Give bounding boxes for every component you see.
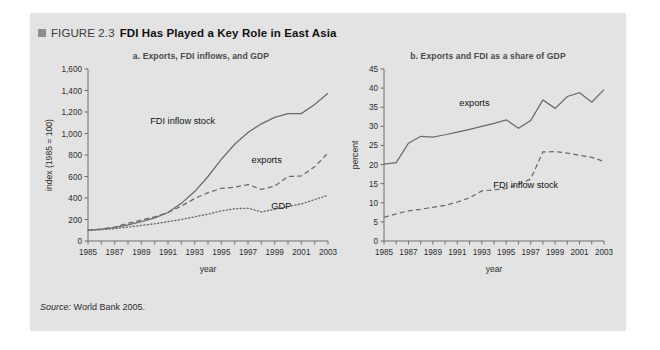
x-tick-label: 1993 xyxy=(186,248,205,257)
y-tick-label: 1,400 xyxy=(62,87,83,96)
y-tick-label: 400 xyxy=(68,194,82,203)
x-tick-label: 2003 xyxy=(595,248,614,257)
x-tick-label: 1989 xyxy=(132,248,151,257)
series-label: FDI inflow stock xyxy=(150,116,215,126)
x-tick-label: 1991 xyxy=(159,248,178,257)
figure-panel: FIGURE 2.3 FDI Has Played a Key Role in … xyxy=(30,13,626,331)
figure-number: FIGURE 2.3 xyxy=(51,27,115,39)
x-tick-label: 1999 xyxy=(546,248,565,257)
chart-a-plot: 02004006008001,0001,2001,4001,6001985198… xyxy=(40,63,340,288)
y-axis-title: percent xyxy=(350,140,360,169)
series-label: FDI inflow stock xyxy=(493,180,558,190)
series-line xyxy=(384,90,604,165)
series-label: exports xyxy=(252,155,283,165)
chart-b-plot: 0510152025303540451985198719891991199319… xyxy=(348,63,620,288)
x-axis-title: year xyxy=(200,264,217,274)
y-axis-title: index (1985 = 100) xyxy=(44,119,54,191)
source-note: Source: World Bank 2005. xyxy=(40,302,145,312)
figure-header: FIGURE 2.3 FDI Has Played a Key Role in … xyxy=(38,27,337,39)
x-tick-label: 2001 xyxy=(292,248,311,257)
series-label: exports xyxy=(459,98,490,108)
y-tick-label: 800 xyxy=(68,151,82,160)
y-tick-label: 0 xyxy=(77,237,82,246)
x-tick-label: 1991 xyxy=(448,248,467,257)
x-tick-label: 1989 xyxy=(424,248,443,257)
y-tick-label: 25 xyxy=(369,141,379,150)
y-tick-label: 200 xyxy=(68,216,82,225)
y-tick-label: 15 xyxy=(369,180,379,189)
y-tick-label: 600 xyxy=(68,173,82,182)
x-tick-label: 1987 xyxy=(106,248,125,257)
y-tick-label: 45 xyxy=(369,65,379,74)
y-tick-label: 30 xyxy=(369,122,379,131)
x-tick-label: 1997 xyxy=(239,248,258,257)
y-tick-label: 5 xyxy=(373,218,378,227)
x-tick-label: 1985 xyxy=(79,248,98,257)
x-axis-title: year xyxy=(486,264,503,274)
x-tick-label: 1995 xyxy=(497,248,516,257)
y-tick-label: 20 xyxy=(369,161,379,170)
y-tick-label: 1,000 xyxy=(62,130,83,139)
y-tick-label: 35 xyxy=(369,103,379,112)
y-tick-label: 10 xyxy=(369,199,379,208)
source-text: World Bank 2005. xyxy=(74,302,145,312)
series-label: GDP xyxy=(271,201,291,211)
series-line xyxy=(88,153,328,230)
x-tick-label: 1995 xyxy=(212,248,231,257)
series-line xyxy=(88,93,328,230)
y-tick-label: 40 xyxy=(369,84,379,93)
y-tick-label: 1,200 xyxy=(62,108,83,117)
x-tick-label: 1993 xyxy=(473,248,492,257)
figure-title: FDI Has Played a Key Role in East Asia xyxy=(120,27,337,39)
square-bullet-icon xyxy=(38,29,46,37)
x-tick-label: 1987 xyxy=(399,248,418,257)
chart-b-subtitle: b. Exports and FDI as a share of GDP xyxy=(348,51,620,61)
x-tick-label: 1985 xyxy=(375,248,394,257)
x-tick-label: 2003 xyxy=(319,248,338,257)
x-tick-label: 1999 xyxy=(266,248,285,257)
chart-a-subtitle: a. Exports, FDI inflows, and GDP xyxy=(40,51,340,61)
y-tick-label: 0 xyxy=(373,237,378,246)
chart-panel-a: a. Exports, FDI inflows, and GDP 0200400… xyxy=(40,51,340,291)
y-tick-label: 1,600 xyxy=(62,65,83,74)
chart-panel-b: b. Exports and FDI as a share of GDP 051… xyxy=(348,51,620,291)
x-tick-label: 2001 xyxy=(570,248,589,257)
source-label: Source: xyxy=(40,302,71,312)
x-tick-label: 1997 xyxy=(522,248,541,257)
